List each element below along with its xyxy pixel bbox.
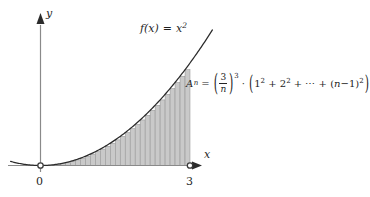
y-axis-label: y: [45, 7, 53, 20]
formula-fraction-denominator: n: [220, 85, 228, 94]
riemann-rectangle: [100, 149, 105, 165]
formula-lhs-subscript: n: [194, 80, 199, 87]
riemann-rectangle: [75, 160, 80, 166]
function-label-exponent: 2: [181, 21, 187, 30]
function-label: f(x)=x2: [139, 21, 187, 35]
function-label-equals: =: [163, 22, 172, 35]
riemann-rectangle: [145, 115, 150, 165]
riemann-rectangle: [70, 161, 75, 165]
function-label-f: f(x): [139, 22, 159, 35]
riemann-rectangle: [90, 154, 95, 165]
endpoint-marker-icon: [187, 163, 192, 168]
riemann-rectangle: [165, 94, 170, 165]
formula-equals: =: [201, 79, 209, 89]
riemann-rectangle: [140, 120, 145, 166]
riemann-rectangle: [115, 140, 120, 166]
formula-outer-exponent: 3: [234, 72, 238, 80]
endpoint-tick-label: 3: [186, 175, 193, 188]
formula-lhs-variable: A: [186, 79, 193, 89]
y-axis-arrowhead: [37, 13, 45, 24]
formula-close-paren-1-group: )3: [228, 78, 239, 89]
origin-tick-label: 0: [36, 175, 43, 188]
formula-fraction-numerator: 3: [220, 73, 228, 82]
formula-sum-expression: 12 + 22 + ⋯ + (n−1)2: [254, 79, 363, 89]
riemann-rectangle: [135, 124, 140, 165]
riemann-rectangle: [105, 146, 110, 165]
svg-text:f(x)=x2: f(x)=x2: [139, 21, 187, 35]
formula-term3-minus: −: [341, 78, 349, 89]
riemann-rectangle: [155, 105, 160, 165]
riemann-rectangle: [95, 152, 100, 166]
formula-plus-1: +: [268, 78, 276, 89]
riemann-rectangle: [130, 129, 135, 166]
formula-close-paren-2: ): [365, 74, 369, 94]
area-formula: An = ( 3 n )3 · ( 12 + 22 + ⋯ + (n−1)2 ): [186, 73, 370, 95]
riemann-rectangle: [175, 82, 180, 165]
formula-ellipsis: ⋯: [305, 78, 315, 89]
formula-fraction: 3 n: [219, 73, 227, 95]
riemann-rectangle: [170, 89, 175, 166]
formula-plus-2: +: [294, 78, 302, 89]
riemann-rectangle: [160, 100, 165, 166]
x-axis-arrowhead: [192, 162, 202, 170]
origin-marker-icon: [38, 163, 43, 168]
riemann-rectangle: [150, 110, 155, 165]
x-axis-label: x: [204, 148, 211, 161]
formula-term2-exponent: 2: [286, 77, 290, 85]
formula-open-paren-1: (: [214, 72, 218, 96]
riemann-rectangle: [85, 156, 90, 165]
formula-open-paren-2: (: [249, 74, 253, 94]
riemann-rectangle: [80, 158, 85, 165]
formula-term1-exponent: 2: [261, 77, 265, 85]
riemann-rectangles: [45, 70, 190, 166]
formula-multiply-dot: ·: [242, 79, 245, 89]
riemann-rectangle: [120, 136, 125, 165]
formula-plus-3: +: [319, 78, 327, 89]
riemann-rectangle: [125, 133, 130, 166]
formula-close-paren-1: ): [229, 72, 233, 96]
riemann-rectangle: [180, 76, 185, 165]
formula-term3-exponent: 2: [359, 77, 363, 85]
riemann-rectangle: [110, 143, 115, 165]
